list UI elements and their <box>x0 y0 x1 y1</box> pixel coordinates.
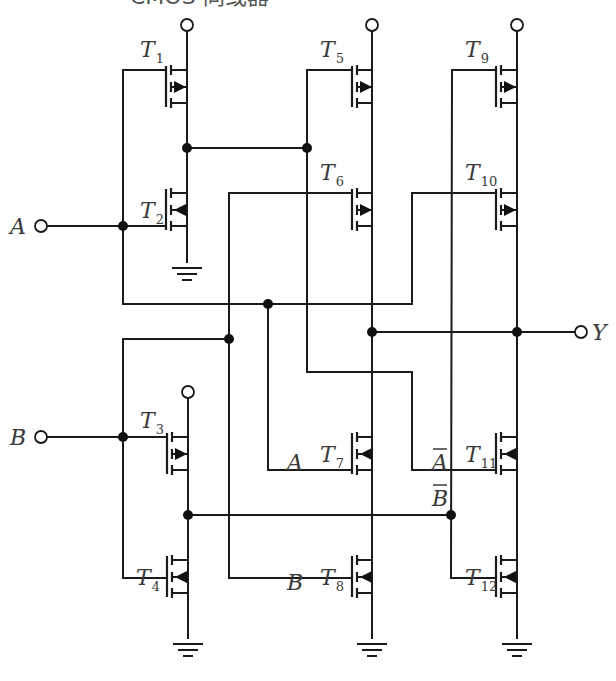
junction-dot <box>367 327 377 337</box>
transistor-label: T12 <box>465 565 497 594</box>
transistor-t6: T6 <box>320 160 372 231</box>
svg-text:B: B <box>286 570 303 595</box>
junction-dot <box>263 299 273 309</box>
transistor-t2: T2 <box>140 188 187 231</box>
input-terminal-icon[interactable] <box>35 220 47 232</box>
signal-label-a: A <box>285 450 303 475</box>
signal-label-not-b: B <box>431 485 448 511</box>
arrow-in-icon <box>174 204 186 216</box>
input-a[interactable]: A <box>8 214 47 239</box>
transistor-t9: T9 <box>465 37 517 108</box>
arrow-out-icon <box>504 81 516 93</box>
vdd-terminal-icon <box>366 19 378 31</box>
input-terminal-icon[interactable] <box>35 431 47 443</box>
wire <box>451 70 452 578</box>
transistor-label: T3 <box>140 408 164 437</box>
arrow-out-icon <box>504 204 516 216</box>
transistor-label: T7 <box>320 442 344 471</box>
svg-text:A: A <box>285 450 303 475</box>
arrow-in-icon <box>175 571 187 583</box>
transistor-t12: T12 <box>465 555 517 598</box>
vdd-terminal-icon <box>182 386 194 398</box>
arrow-out-icon <box>175 448 187 460</box>
transistor-t4: T4 <box>136 555 188 598</box>
transistor-label: T5 <box>320 37 344 66</box>
arrow-in-icon <box>504 571 516 583</box>
junction-dot <box>512 327 522 337</box>
transistor-label: T11 <box>465 442 497 471</box>
transistor-label: T1 <box>140 37 164 66</box>
cmos-xnor-schematic: CMOS 同或器 T1T2T3T4T5T6T7T8T9T10T11T12 ABY… <box>0 0 616 681</box>
wires <box>47 31 575 638</box>
signal-label-not-a: A <box>430 449 448 475</box>
transistor-label: T8 <box>320 565 344 594</box>
vdd-terminal-icon <box>511 19 523 31</box>
transistor-t11: T11 <box>465 432 517 475</box>
transistor-label: T4 <box>136 565 160 594</box>
arrow-in-icon <box>504 448 516 460</box>
output-label: Y <box>592 320 609 345</box>
svg-text:B: B <box>431 486 448 511</box>
output-y[interactable]: Y <box>575 320 609 345</box>
junction-dot <box>118 432 128 442</box>
ground-icon <box>358 644 386 656</box>
transistor-t8: T8 <box>320 555 372 598</box>
output-terminal-icon[interactable] <box>575 326 587 338</box>
transistors: T1T2T3T4T5T6T7T8T9T10T11T12 <box>136 37 517 598</box>
figure-title: CMOS 同或器 <box>130 0 269 9</box>
input-label: A <box>8 214 26 239</box>
junction-dot <box>446 510 456 520</box>
arrow-out-icon <box>360 204 372 216</box>
arrow-out-icon <box>360 81 372 93</box>
transistor-t7: T7 <box>320 432 372 475</box>
junction-dot <box>224 334 234 344</box>
arrow-in-icon <box>360 448 372 460</box>
input-label: B <box>9 425 26 450</box>
transistor-t10: T10 <box>465 160 517 231</box>
transistor-t1: T1 <box>140 37 187 108</box>
svg-text:A: A <box>430 450 448 475</box>
transistor-label: T6 <box>320 160 344 189</box>
transistor-label: T9 <box>465 37 489 66</box>
ground-icon <box>503 644 531 656</box>
transistor-t3: T3 <box>140 408 188 475</box>
ground-icon <box>173 268 201 280</box>
junction-dot <box>118 221 128 231</box>
junction-dot <box>302 143 312 153</box>
junction-dot <box>183 510 193 520</box>
transistor-label: T2 <box>140 198 164 227</box>
arrow-in-icon <box>360 571 372 583</box>
ground-icon <box>174 644 202 656</box>
transistor-t5: T5 <box>320 37 372 108</box>
signal-label-b: B <box>286 570 303 595</box>
input-b[interactable]: B <box>9 425 47 450</box>
transistor-label: T10 <box>465 160 497 189</box>
vdd-terminal-icon <box>181 19 193 31</box>
junction-dot <box>182 143 192 153</box>
arrow-out-icon <box>174 81 186 93</box>
